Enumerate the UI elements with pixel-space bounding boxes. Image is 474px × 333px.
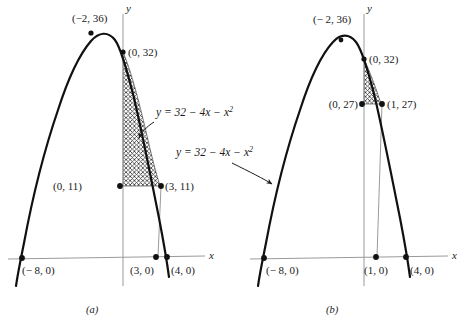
y-axis-label-a: y — [125, 2, 131, 14]
label-3-11-a: (3, 11) — [165, 180, 194, 193]
point-0-11-a — [117, 183, 123, 189]
label-1-27-b: (1, 27) — [387, 98, 417, 111]
point-left-root-a — [19, 255, 25, 261]
label-left-root-b: (− 8, 0) — [266, 264, 299, 277]
point-left-root-b — [261, 255, 267, 261]
label-0-27-b: (0, 27) — [329, 98, 359, 111]
point-0-27-b — [359, 101, 365, 107]
label-1-0-b: (1, 0) — [364, 264, 388, 277]
point-1-0-b — [373, 254, 379, 260]
panel-caption-a: (a) — [86, 304, 99, 316]
point-vertex-a — [88, 30, 93, 35]
point-y-intercept-a — [120, 49, 125, 54]
label-vertex-b: (− 2, 36) — [313, 13, 352, 26]
equation-exponent-b: 2 — [249, 145, 253, 154]
label-3-0-a: (3, 0) — [130, 264, 154, 277]
point-1-27-b — [379, 101, 385, 107]
point-3-0-a — [153, 254, 159, 260]
label-vertex-a: (−2, 36) — [72, 12, 108, 25]
point-right-root-a — [164, 254, 170, 260]
label-0-11-a: (0, 11) — [53, 180, 82, 193]
equation-exponent-a: 2 — [229, 105, 233, 114]
point-y-intercept-b — [361, 56, 366, 61]
point-vertex-b — [339, 38, 344, 43]
label-right-root-a: (4, 0) — [171, 264, 195, 277]
y-axis-label-b: y — [366, 2, 372, 14]
figure-canvas: x y (−2, 36) (0, 32) (0, 11) (3, 11) (− … — [0, 0, 474, 333]
x-axis-label-a: x — [208, 249, 214, 261]
label-y-intercept-a: (0, 32) — [128, 46, 158, 59]
equation-label-a: y = 32 − 4x − x2 — [155, 105, 233, 119]
x-axis-label-b: x — [451, 249, 457, 261]
equation-text-a: y = 32 − 4x − x — [155, 106, 230, 119]
label-y-intercept-b: (0, 32) — [369, 53, 399, 66]
panel-caption-b: (b) — [326, 304, 339, 316]
point-3-11-a — [158, 183, 164, 189]
equation-text-b: y = 32 − 4x − x — [175, 146, 250, 159]
point-right-root-b — [403, 254, 409, 260]
figure-background — [0, 0, 474, 333]
label-right-root-b: (4, 0) — [410, 264, 434, 277]
equation-label-b: y = 32 − 4x − x2 — [175, 145, 253, 159]
label-left-root-a: (− 8, 0) — [22, 264, 55, 277]
